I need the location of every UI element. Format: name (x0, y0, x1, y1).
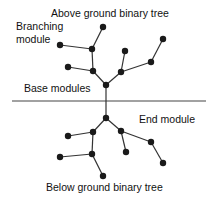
base-modules-label: Base modules (24, 82, 91, 94)
below-module-node (148, 139, 154, 145)
above-ground-tree-edges (60, 27, 163, 85)
above-edge (68, 67, 93, 71)
below-module-node (90, 129, 96, 135)
below-edge (92, 154, 103, 176)
below-edge (60, 154, 92, 157)
above-module-node (90, 68, 96, 74)
below-module-node (89, 151, 95, 157)
below-edge (121, 131, 126, 152)
below-edge (68, 132, 93, 136)
below-edge (121, 131, 151, 142)
above-edge (92, 49, 93, 71)
above-edge (121, 51, 125, 72)
below-module-node (118, 128, 124, 134)
below-edge (151, 142, 163, 163)
branching-module-label-line1: Branching (16, 20, 63, 32)
below-ground-tree-edges (60, 118, 163, 176)
below-module-node (57, 154, 63, 160)
below-module-node (100, 173, 106, 179)
below-edge (92, 132, 93, 154)
above-module-node (65, 64, 71, 70)
end-module-label: End module (139, 113, 195, 125)
branching-module-label-line2: module (16, 33, 51, 45)
below-module-node (123, 149, 129, 155)
binary-tree-diagram: Above ground binary tree Branching modul… (0, 0, 214, 197)
below-module-node (65, 133, 71, 139)
above-module-node (148, 59, 154, 65)
above-module-node (89, 46, 95, 52)
above-ground-tree-nodes (57, 24, 166, 88)
below-ground-title: Below ground binary tree (46, 181, 163, 193)
above-module-node (100, 24, 106, 30)
above-module-node (118, 69, 124, 75)
above-edge (60, 45, 92, 49)
below-module-node (160, 160, 166, 166)
above-module-node (57, 42, 63, 48)
above-module-node (122, 48, 128, 54)
above-edge (121, 62, 151, 72)
below-module-node (103, 115, 109, 121)
above-module-node (103, 82, 109, 88)
above-edge (92, 27, 103, 49)
above-edge (151, 39, 163, 62)
above-ground-title: Above ground binary tree (51, 7, 169, 19)
above-module-node (160, 36, 166, 42)
